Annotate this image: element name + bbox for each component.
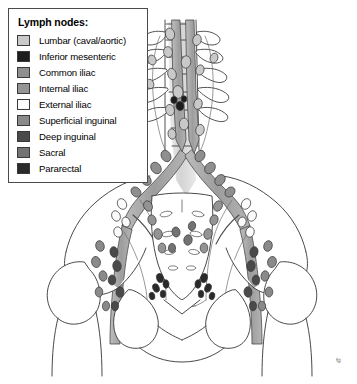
legend-item-external-iliac: External iliac (17, 96, 142, 112)
lymph-node-figure: Lymph nodes: Lumbar (caval/aortic) Infer… (0, 0, 357, 384)
legend-title: Lymph nodes: (18, 16, 142, 28)
legend-label-common-iliac: Common iliac (39, 67, 95, 78)
legend-item-lumbar: Lumbar (caval/aortic) (17, 32, 142, 48)
legend-label-superficial-inguinal: Superficial inguinal (39, 115, 117, 126)
swatch-inferior-mesenteric (17, 51, 30, 62)
swatch-sacral (17, 147, 30, 158)
swatch-lumbar (17, 35, 30, 46)
legend-label-sacral: Sacral (39, 147, 65, 158)
swatch-internal-iliac (17, 83, 30, 94)
legend-box: Lymph nodes: Lumbar (caval/aortic) Infer… (8, 8, 148, 183)
legend-item-pararectal: Pararectal (17, 160, 142, 176)
legend-label-external-iliac: External iliac (39, 99, 91, 110)
swatch-superficial-inguinal (17, 115, 30, 126)
swatch-pararectal (17, 163, 30, 174)
swatch-external-iliac (17, 99, 30, 110)
swatch-deep-inguinal (17, 131, 30, 142)
legend-label-pararectal: Pararectal (39, 163, 81, 174)
legend-item-internal-iliac: Internal iliac (17, 80, 142, 96)
legend-item-deep-inguinal: Deep inguinal (17, 128, 142, 144)
legend-item-common-iliac: Common iliac (17, 64, 142, 80)
artist-signature: fg (335, 357, 340, 363)
legend-label-deep-inguinal: Deep inguinal (39, 131, 96, 142)
legend-label-lumbar: Lumbar (caval/aortic) (39, 35, 126, 46)
legend-item-superficial-inguinal: Superficial inguinal (17, 112, 142, 128)
legend-item-sacral: Sacral (17, 144, 142, 160)
legend-label-internal-iliac: Internal iliac (39, 83, 88, 94)
legend-item-inferior-mesenteric: Inferior mesenteric (17, 48, 142, 64)
legend-label-inferior-mesenteric: Inferior mesenteric (39, 51, 116, 62)
swatch-common-iliac (17, 67, 30, 78)
